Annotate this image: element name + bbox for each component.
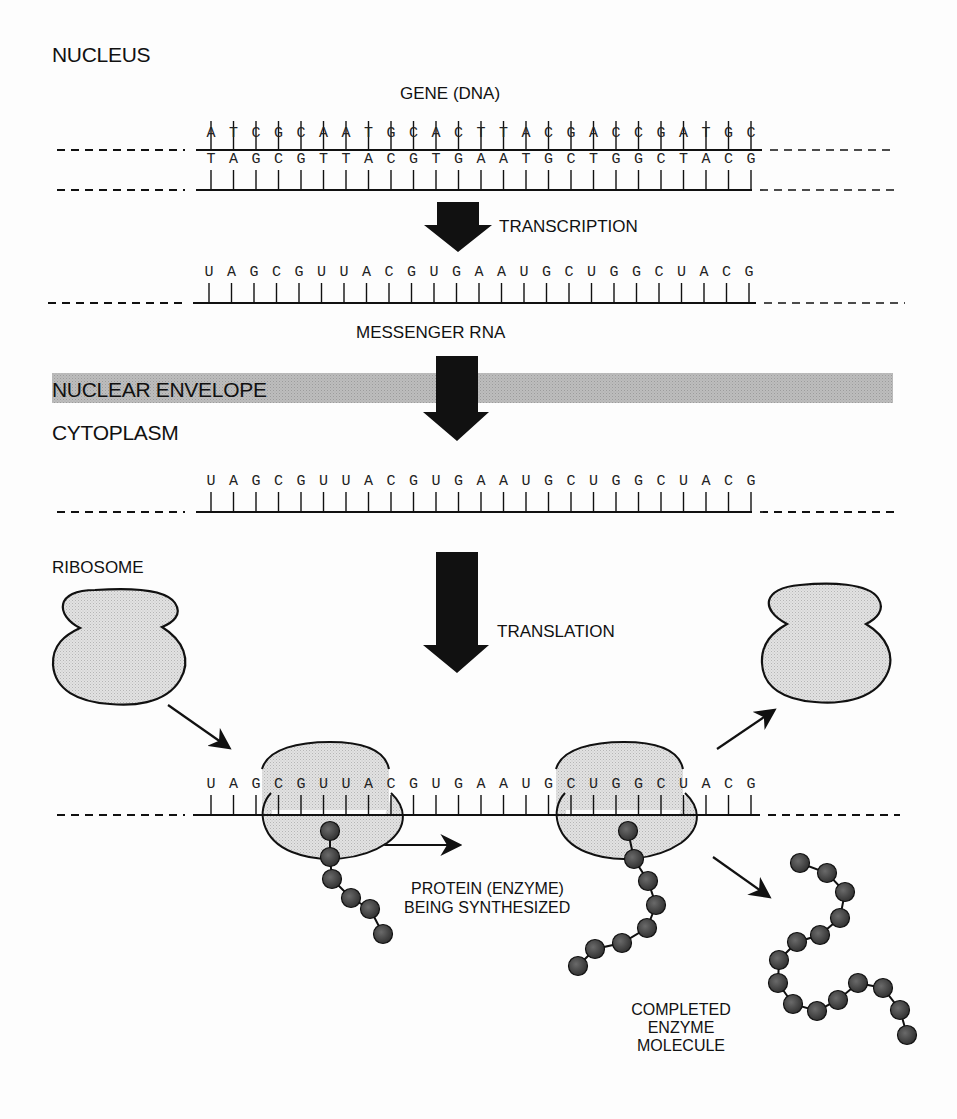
- nucleotide-base: A: [229, 473, 238, 490]
- nucleotide-base: C: [746, 125, 755, 142]
- nucleotide-base: G: [634, 473, 643, 490]
- nucleotide-base: A: [476, 151, 485, 168]
- nucleotide-base: T: [431, 151, 440, 168]
- nucleotide-base: C: [251, 125, 260, 142]
- free-ribosome-left-icon: [53, 589, 185, 705]
- amino-acid-bead-icon: [788, 933, 807, 952]
- amino-acid-bead-icon: [361, 900, 380, 919]
- nucleotide-base: A: [362, 264, 371, 281]
- protein-label-line1: PROTEIN (ENZYME): [411, 880, 564, 897]
- nucleotide-base: A: [521, 125, 530, 142]
- amino-acid-bead-icon: [811, 926, 830, 945]
- gene-dna-label: GENE (DNA): [400, 84, 500, 103]
- nucleotide-base: U: [204, 264, 213, 281]
- nucleotide-base: G: [454, 473, 463, 490]
- amino-acid-bead-icon: [321, 822, 340, 841]
- cytoplasm-label: CYTOPLASM: [52, 421, 178, 444]
- nucleotide-base: C: [656, 151, 665, 168]
- nucleotide-base: A: [499, 473, 508, 490]
- nucleotide-base: A: [679, 125, 688, 142]
- nucleotide-base: A: [589, 125, 598, 142]
- nucleotide-base: A: [476, 473, 485, 490]
- nucleotide-base: U: [587, 264, 596, 281]
- nucleotide-base: G: [611, 151, 620, 168]
- nucleotide-base: G: [407, 264, 416, 281]
- nucleus-label: NUCLEUS: [52, 43, 151, 66]
- completed-enzyme-chain: [769, 854, 917, 1045]
- nucleotide-base: C: [566, 776, 575, 793]
- amino-acid-bead-icon: [586, 940, 605, 959]
- nucleotide-base: U: [431, 473, 440, 490]
- nucleotide-base: U: [206, 473, 215, 490]
- protein-synthesis-diagram: NUCLEUS GENE (DNA) ATCGCAATGCACTTACGACCG…: [0, 0, 957, 1119]
- released-ribosome-right-icon: [762, 584, 890, 703]
- nucleotide-base: T: [319, 151, 328, 168]
- nucleotide-base: U: [677, 264, 686, 281]
- protein-label-line2: BEING SYNTHESIZED: [404, 899, 570, 916]
- mrna-cytoplasm: UAGCGUUACGUGAAUGCUGGCUACG: [57, 473, 900, 512]
- ribosome-binding-arrow-icon: [168, 705, 228, 747]
- nucleotide-base: C: [656, 776, 665, 793]
- nucleotide-base: G: [634, 776, 643, 793]
- nucleotide-base: T: [206, 151, 215, 168]
- nucleotide-base: U: [339, 264, 348, 281]
- amino-acid-bead-icon: [818, 864, 837, 883]
- nucleotide-base: G: [744, 264, 753, 281]
- amino-acid-bead-icon: [323, 870, 342, 889]
- nucleotide-base: G: [544, 473, 553, 490]
- amino-acid-bead-icon: [829, 991, 848, 1010]
- amino-acid-bead-icon: [647, 896, 666, 915]
- nucleotide-base: T: [499, 125, 508, 142]
- nucleotide-base: T: [679, 151, 688, 168]
- nucleotide-base: C: [274, 151, 283, 168]
- nucleotide-base: G: [454, 151, 463, 168]
- nucleotide-base: T: [341, 151, 350, 168]
- amino-acid-bead-icon: [784, 995, 803, 1014]
- nucleotide-base: C: [386, 776, 395, 793]
- nucleotide-base: U: [679, 776, 688, 793]
- messenger-rna-label: MESSENGER RNA: [356, 323, 506, 342]
- nucleotide-base: C: [724, 151, 733, 168]
- nucleotide-base: C: [566, 473, 575, 490]
- nucleotide-base: G: [746, 151, 755, 168]
- nucleotide-base: C: [654, 264, 663, 281]
- nucleotide-base: A: [364, 473, 373, 490]
- nucleotide-base: C: [386, 473, 395, 490]
- nucleotide-base: U: [317, 264, 326, 281]
- nucleotide-base: U: [341, 776, 350, 793]
- nucleotide-base: C: [274, 776, 283, 793]
- nucleotide-base: G: [544, 776, 553, 793]
- amino-acid-bead-icon: [891, 1001, 910, 1020]
- translation-label: TRANSLATION: [497, 622, 615, 641]
- nucleotide-base: G: [634, 151, 643, 168]
- nucleotide-base: A: [701, 776, 710, 793]
- amino-acid-bead-icon: [625, 850, 644, 869]
- nucleotide-base: C: [722, 264, 731, 281]
- enzyme-release-arrow-icon: [713, 857, 768, 896]
- ribosome-label: RIBOSOME: [52, 558, 144, 577]
- nucleotide-base: C: [272, 264, 281, 281]
- nucleotide-base: A: [499, 151, 508, 168]
- amino-acid-bead-icon: [874, 979, 893, 998]
- nucleotide-base: G: [454, 776, 463, 793]
- amino-acid-bead-icon: [791, 854, 810, 873]
- nucleotide-base: U: [679, 473, 688, 490]
- nucleotide-base: A: [229, 151, 238, 168]
- nucleotide-base: A: [474, 264, 483, 281]
- nucleotide-base: A: [229, 776, 238, 793]
- nucleotide-base: A: [364, 151, 373, 168]
- nucleotide-base: G: [611, 776, 620, 793]
- nucleotide-base: G: [632, 264, 641, 281]
- nucleotide-base: U: [341, 473, 350, 490]
- nucleotide-base: C: [544, 125, 553, 142]
- nucleotide-base: C: [386, 151, 395, 168]
- dna-double-helix: ATCGCAATGCACTTACGACCGATGC TAGCGTTACGTGAA…: [57, 121, 895, 190]
- amino-acid-bead-icon: [569, 957, 588, 976]
- amino-acid-bead-icon: [374, 925, 393, 944]
- nucleotide-base: T: [476, 125, 485, 142]
- nucleotide-base: U: [206, 776, 215, 793]
- nucleotide-base: G: [249, 264, 258, 281]
- nucleotide-base: G: [386, 125, 395, 142]
- ribosome-release-arrow-icon: [717, 711, 773, 749]
- nucleotide-base: A: [497, 264, 506, 281]
